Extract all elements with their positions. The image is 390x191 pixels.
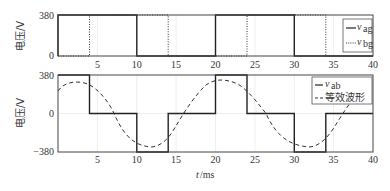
svg-text:380: 380	[39, 10, 54, 21]
svg-text:5: 5	[95, 154, 100, 165]
bottom-legend: v ab 等效波形	[312, 77, 372, 104]
svg-text:30: 30	[289, 154, 299, 165]
top-x-ticks: 5 10 15 20 25 30 35 40	[95, 59, 378, 70]
x-label-unit: /ms	[200, 169, 215, 180]
svg-text:25: 25	[250, 59, 260, 70]
svg-text:v: v	[357, 21, 362, 32]
svg-text:40: 40	[368, 154, 378, 165]
bottom-chart: v ab 等效波形 380 0 −380 5 10 15 20 25 30 35…	[14, 70, 378, 180]
svg-text:25: 25	[250, 154, 260, 165]
svg-text:bg: bg	[363, 38, 373, 49]
svg-text:0: 0	[49, 108, 54, 119]
svg-text:10: 10	[132, 59, 142, 70]
chart-figure: v ag v bg 380 0 5 10 15 20 25 30 35 40 电…	[0, 0, 390, 191]
svg-text:电压/V: 电压/V	[14, 21, 26, 51]
svg-text:10: 10	[132, 154, 142, 165]
svg-text:35: 35	[329, 154, 339, 165]
svg-text:v: v	[357, 36, 362, 47]
svg-text:0: 0	[49, 50, 54, 61]
x-label-t: t	[196, 169, 199, 180]
svg-text:380: 380	[39, 70, 54, 81]
svg-text:20: 20	[211, 59, 221, 70]
svg-text:等效波形: 等效波形	[325, 91, 365, 103]
top-chart: v ag v bg 380 0 5 10 15 20 25 30 35 40 电…	[14, 10, 378, 70]
svg-text:35: 35	[329, 59, 339, 70]
svg-text:15: 15	[171, 154, 181, 165]
top-legend: v ag v bg	[343, 19, 373, 52]
svg-text:15: 15	[171, 59, 181, 70]
svg-text:ag: ag	[363, 23, 372, 34]
svg-text:电压/V: 电压/V	[14, 98, 26, 128]
svg-text:20: 20	[211, 154, 221, 165]
svg-text:40: 40	[368, 59, 378, 70]
svg-text:30: 30	[289, 59, 299, 70]
svg-text:5: 5	[95, 59, 100, 70]
bottom-x-ticks: 5 10 15 20 25 30 35 40	[95, 154, 378, 165]
svg-text:−380: −380	[33, 146, 54, 157]
svg-text:v: v	[325, 78, 330, 89]
svg-text:ab: ab	[331, 80, 340, 91]
